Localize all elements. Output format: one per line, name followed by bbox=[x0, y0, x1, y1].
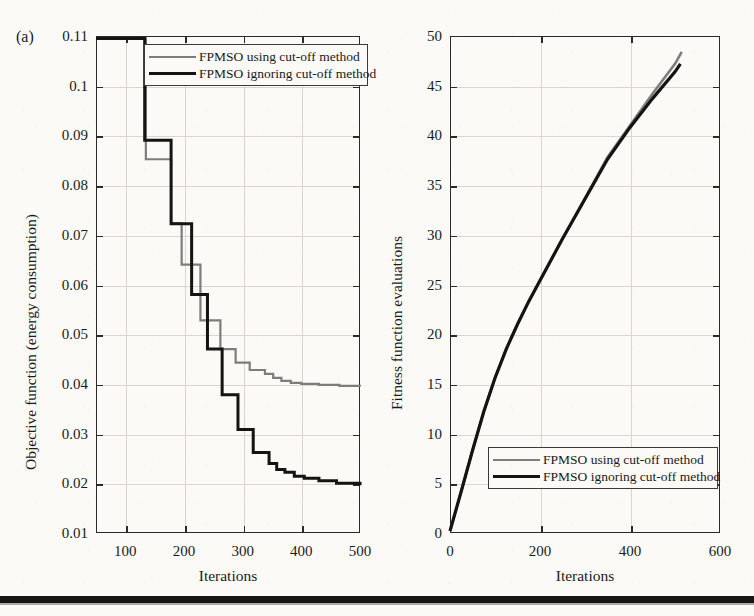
legend-left: FPMSO using cut-off method FPMSO ignorin… bbox=[144, 44, 368, 86]
legend-line-icon-black bbox=[149, 72, 196, 75]
legend-item: FPMSO ignoring cut-off method bbox=[493, 468, 712, 485]
xtick-label: 200 bbox=[529, 544, 552, 559]
ytick-label: 0.02 bbox=[26, 476, 88, 491]
xtick-label: 500 bbox=[349, 544, 372, 559]
legend-line-icon-grey bbox=[149, 56, 196, 58]
legend-item: FPMSO ignoring cut-off method bbox=[149, 65, 362, 82]
legend-label: FPMSO ignoring cut-off method bbox=[543, 470, 720, 484]
ytick-label: 50 bbox=[392, 29, 442, 44]
ytick-label: 0.08 bbox=[26, 178, 88, 193]
xtick-label: 400 bbox=[619, 544, 642, 559]
figure-panel-a: (a) bbox=[0, 0, 754, 616]
ytick-label: 0 bbox=[392, 526, 442, 541]
ytick-label: 0.09 bbox=[26, 128, 88, 143]
ytick-label: 0.01 bbox=[26, 526, 88, 541]
chart-objective-function: (a) bbox=[0, 0, 380, 600]
xtick-label: 100 bbox=[114, 544, 137, 559]
ytick-label: 45 bbox=[392, 78, 442, 93]
legend-label: FPMSO using cut-off method bbox=[543, 453, 704, 467]
legend-label: FPMSO ignoring cut-off method bbox=[199, 67, 376, 81]
ytick-label: 35 bbox=[392, 178, 442, 193]
xtick-label: 400 bbox=[290, 544, 313, 559]
series-path bbox=[96, 38, 360, 386]
legend-line-icon-black bbox=[493, 475, 540, 478]
ytick-label: 5 bbox=[392, 476, 442, 491]
legend-label: FPMSO using cut-off method bbox=[199, 50, 360, 64]
page-footer-rule bbox=[0, 596, 754, 603]
legend-right: FPMSO using cut-off method FPMSO ignorin… bbox=[488, 447, 718, 489]
y-axis-title-left: Objective function (energy consumption) bbox=[22, 214, 40, 470]
ytick-label: 0.1 bbox=[26, 78, 88, 93]
ytick-label: 0.11 bbox=[26, 29, 88, 44]
ytick-label: 40 bbox=[392, 128, 442, 143]
xtick-label: 600 bbox=[709, 544, 732, 559]
xtick-label: 300 bbox=[231, 544, 254, 559]
legend-item: FPMSO using cut-off method bbox=[493, 451, 712, 468]
chart-fitness-evaluations: 50 45 40 35 30 25 20 15 10 5 0 0 200 400… bbox=[374, 0, 754, 600]
x-axis-title-right: Iterations bbox=[556, 567, 615, 585]
series-path bbox=[96, 38, 360, 485]
x-axis-title-left: Iterations bbox=[199, 567, 258, 585]
y-axis-title-right: Fitness function evaluations bbox=[388, 236, 406, 410]
xtick-label: 200 bbox=[173, 544, 196, 559]
legend-line-icon-grey bbox=[493, 459, 540, 461]
legend-item: FPMSO using cut-off method bbox=[149, 48, 362, 65]
ytick-label: 10 bbox=[392, 426, 442, 441]
xtick-label: 0 bbox=[446, 544, 454, 559]
